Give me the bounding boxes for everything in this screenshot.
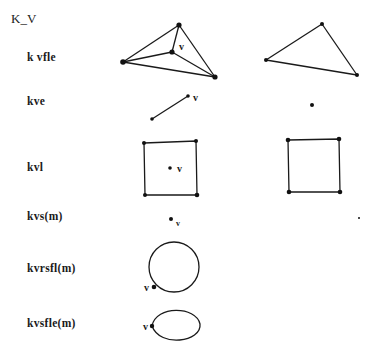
kvrsfl-before: v: [144, 242, 199, 293]
kvsfle-before: v: [143, 310, 200, 340]
vertex-label-v: v: [193, 92, 198, 103]
vertex-label-v: v: [144, 282, 149, 293]
kve-before: v: [150, 92, 198, 121]
kvs-after: [358, 217, 360, 219]
kvl-after: [286, 137, 343, 195]
vertex-label-v: v: [179, 41, 184, 52]
vertex-label-v: v: [177, 163, 182, 174]
kve-after: [310, 103, 314, 107]
euler-operators-diagram: v v v v: [0, 0, 375, 359]
vertex-label-v: v: [143, 321, 148, 332]
kvfle-before: v: [120, 22, 217, 79]
kvs-before: v: [169, 217, 180, 228]
kvfle-after: [264, 22, 359, 77]
kvl-before: v: [142, 139, 199, 197]
vertex-label-v: v: [176, 219, 180, 228]
